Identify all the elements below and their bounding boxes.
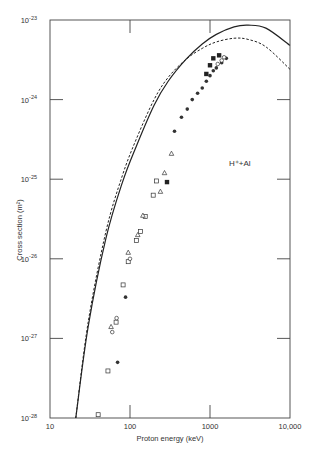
filled-square-marker [217,53,221,57]
open-triangle-marker [158,189,163,193]
theory-dashed-curve [76,38,290,418]
y-tick-label: 10-23 [21,15,37,26]
filled-circle-marker [196,91,200,95]
open-circle-marker [222,55,226,59]
x-tick-label: 10 [46,422,54,431]
filled-circle-marker [205,79,209,83]
open-square-marker [114,320,118,324]
filled-circle-marker [208,74,212,78]
x-tick-label: 1000 [202,422,219,431]
open-circle-marker [115,316,119,320]
filled-circle-marker [212,69,216,73]
filled-circle-marker [173,129,177,133]
y-axis-label: Cross section (m²) [15,199,24,261]
open-triangle-marker [162,170,167,174]
plot-svg: 10100100010,00010-2310-2410-2510-2610-27… [0,0,317,449]
open-circle-marker [220,59,224,63]
x-tick-label: 10,000 [279,422,302,431]
filled-circle-marker [185,107,189,111]
y-tick-label: 10-28 [21,413,37,424]
x-axis-label: Proton energy (keV) [136,434,204,443]
open-square-marker [106,369,110,373]
open-square-marker [151,193,155,197]
open-square-marker [134,238,138,242]
open-circle-marker [110,330,114,334]
open-square-marker [121,283,125,287]
x-tick-label: 100 [124,422,137,431]
open-square-marker [138,230,142,234]
y-tick-label: 10-24 [21,94,37,105]
filled-circle-marker [124,295,128,299]
filled-square-marker [208,63,212,67]
filled-square-marker [211,56,215,60]
filled-circle-marker [190,98,194,102]
data-markers [96,53,228,417]
y-tick-label: 10-25 [21,174,37,185]
cross-section-chart: 10100100010,00010-2310-2410-2510-2610-27… [0,0,317,449]
open-triangle-marker [169,151,174,155]
filled-square-marker [165,180,169,184]
open-circle-marker [128,257,132,261]
filled-circle-marker [200,86,204,90]
filled-circle-marker [116,361,120,365]
open-circle-marker [216,62,220,66]
filled-circle-marker [180,115,184,119]
axes: 10100100010,00010-2310-2410-2510-2610-27… [21,15,302,432]
open-triangle-marker [109,324,114,328]
y-tick-label: 10-27 [21,333,37,344]
filled-circle-marker [215,66,219,70]
open-square-marker [96,413,100,417]
reaction-label: H⁺+Al [229,159,251,168]
theory-curves [76,25,290,418]
filled-square-marker [204,72,208,76]
open-square-marker [155,179,159,183]
open-triangle-marker [126,250,131,254]
